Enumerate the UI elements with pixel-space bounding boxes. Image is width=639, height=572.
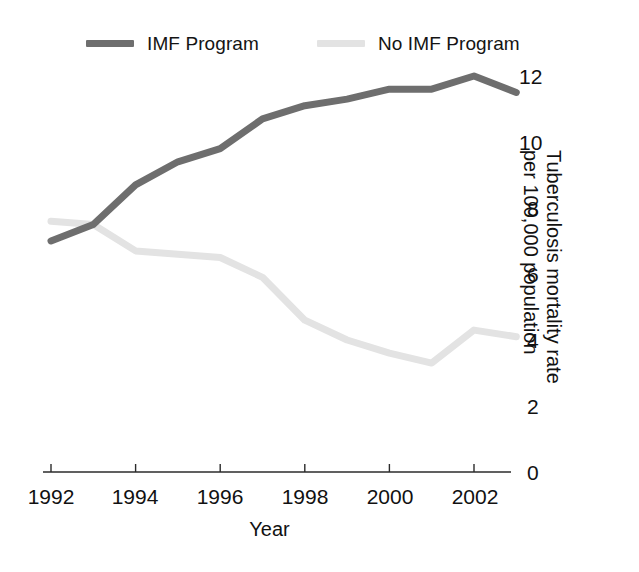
x-tick-label-2002: 2002 [452, 486, 499, 507]
y-tick-label-12: 12 [519, 66, 542, 87]
series-line-imf-program [51, 76, 516, 241]
x-tick-label-1996: 1996 [197, 486, 244, 507]
x-tick-label-1992: 1992 [28, 486, 75, 507]
x-tick-label-1998: 1998 [282, 486, 329, 507]
y-tick-label-0: 0 [527, 462, 539, 483]
tuberculosis-mortality-line-chart: IMF Program No IMF Program 12 10 8 6 4 2… [0, 0, 639, 572]
x-axis-title: Year [0, 519, 539, 539]
y-axis-title: Tuberculosis mortality rate per 100,000 … [519, 150, 565, 450]
x-tick-label-1994: 1994 [112, 486, 159, 507]
series-line-no-imf-program [51, 221, 516, 363]
x-axis-ticks [51, 464, 474, 472]
x-tick-label-2000: 2000 [367, 486, 414, 507]
